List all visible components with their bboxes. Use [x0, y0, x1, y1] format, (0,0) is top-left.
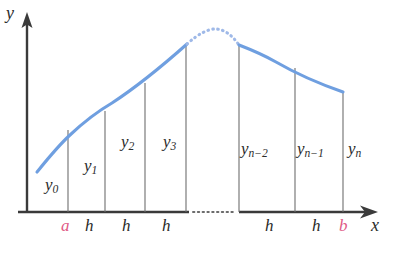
trapezoidal-rule-figure: y x y0 y1 y2 y3 yn−2 yn−1 yn h h h h h a…: [0, 0, 394, 254]
x-axis-label: x: [371, 216, 379, 234]
step-label-h-2: h: [122, 217, 131, 234]
curve-solid-left: [37, 44, 187, 172]
curve-solid-right: [239, 45, 343, 92]
ordinate-label-yn2: yn−2: [241, 140, 268, 160]
ordinate-label-y0: y0: [45, 176, 58, 196]
ordinate-label-y2: y2: [121, 133, 134, 153]
step-label-h-4: h: [265, 217, 274, 234]
curve-dotted-top: [187, 29, 239, 45]
y-axis: [22, 12, 33, 212]
ordinate-lines: [68, 45, 343, 212]
step-label-h-3: h: [162, 217, 171, 234]
step-label-h-1: h: [85, 217, 94, 234]
interval-start-label-a: a: [61, 217, 70, 234]
ordinate-label-yn: yn: [348, 140, 361, 160]
step-label-h-5: h: [312, 217, 321, 234]
ordinate-label-yn1: yn−1: [297, 140, 324, 160]
interval-end-label-b: b: [339, 217, 348, 234]
x-axis: [18, 206, 378, 219]
figure-canvas: [0, 0, 394, 254]
ordinate-label-y1: y1: [84, 157, 97, 177]
y-axis-label: y: [6, 4, 14, 22]
ordinate-label-y3: y3: [163, 133, 176, 153]
